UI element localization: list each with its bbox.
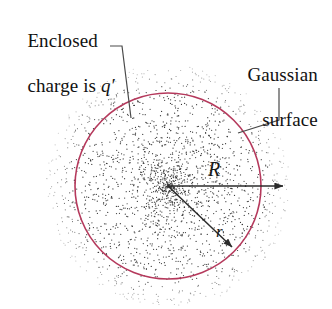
radius-r-label: r [216,222,223,242]
enclosed-charge-symbol: q′ [101,75,115,96]
enclosed-charge-line1: Enclosed [27,30,97,51]
gaussian-surface-label: Gaussian surface [228,42,318,154]
gaussian-surface-figure: Enclosed charge is q′ Gaussian surface R… [0,0,332,309]
gaussian-surface-line2: surface [262,109,318,130]
enclosed-charge-line2-prefix: charge is [27,75,100,96]
radius-R-label: R [208,158,220,181]
enclosed-charge-label: Enclosed charge is q′ [8,8,115,120]
gaussian-surface-line1: Gaussian [247,64,317,85]
